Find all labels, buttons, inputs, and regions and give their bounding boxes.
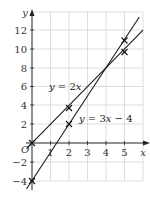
x-tick-2: 2 [66, 147, 72, 158]
y-tick-12: 12 [14, 25, 27, 36]
tick-marks [30, 30, 125, 181]
x-axis-arrow-icon [143, 141, 150, 146]
y-tick-10: 10 [14, 44, 27, 55]
y-axis-arrow-icon [30, 9, 35, 16]
origin-label: O [21, 144, 29, 155]
y-tick-6: 6 [21, 81, 27, 92]
y-tick-8: 8 [21, 63, 27, 74]
line-y-equals-2x [27, 30, 144, 148]
x-tick-5: 5 [121, 147, 127, 158]
y-tick-neg2: −2 [12, 157, 27, 168]
x-tick-4: 4 [103, 147, 109, 158]
label-y-equals-3x-minus-4: y = 3x − 4 [78, 113, 133, 124]
y-tick-4: 4 [21, 100, 27, 111]
chart: 1 2 3 4 5 −4 −2 2 4 6 8 10 12 y x O y [0, 0, 150, 205]
x-tick-3: 3 [84, 147, 90, 158]
label-y-equals-2x: y = 2x [48, 81, 82, 92]
y-tick-neg4: −4 [12, 176, 27, 187]
axes [26, 14, 146, 190]
x-axis-label: x [140, 147, 146, 158]
y-tick-2: 2 [21, 119, 27, 130]
y-axis-label: y [21, 7, 28, 18]
